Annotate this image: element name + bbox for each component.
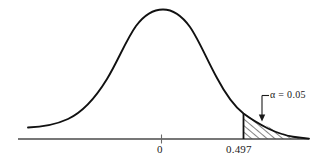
x-tick-label-critical-value: 0.497 [226,143,252,155]
alpha-annotation-label: α = 0.05 [270,89,306,100]
normal-distribution-figure: 0 0.497 α = 0.05 [0,0,324,165]
leader-arrowhead-icon [259,115,265,122]
annotation-leader-line [259,96,269,122]
x-tick-label-zero: 0 [157,143,163,155]
bell-curve-path [28,10,309,139]
distribution-plot-svg [0,0,324,165]
